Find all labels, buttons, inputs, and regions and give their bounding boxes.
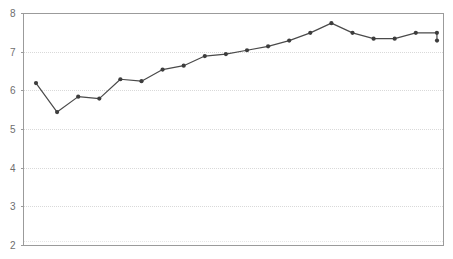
data-point-marker — [97, 96, 101, 100]
series-line-1 — [36, 23, 437, 112]
data-point-marker — [435, 38, 439, 42]
y-tick-label-2: 2 — [10, 240, 16, 251]
chart-container: 2345678 — [0, 0, 453, 259]
data-point-marker — [161, 67, 165, 71]
data-point-marker — [372, 37, 376, 41]
data-point-marker — [393, 37, 397, 41]
data-point-marker — [414, 31, 418, 35]
data-series-group — [36, 23, 437, 112]
data-point-marker — [308, 31, 312, 35]
data-point-marker — [245, 48, 249, 52]
y-tick-label-4: 4 — [10, 163, 16, 174]
y-tick-label-5: 5 — [10, 124, 16, 135]
data-markers-group — [34, 21, 439, 114]
data-point-marker — [182, 64, 186, 68]
data-point-marker — [203, 54, 207, 58]
data-point-marker — [139, 79, 143, 83]
data-point-marker — [34, 81, 38, 85]
y-axis-tick-labels: 2345678 — [10, 8, 24, 251]
y-tick-label-6: 6 — [10, 85, 16, 96]
data-point-marker — [329, 21, 333, 25]
data-point-marker — [118, 77, 122, 81]
y-tick-label-3: 3 — [10, 201, 16, 212]
data-point-marker — [435, 31, 439, 35]
line-chart: 2345678 — [0, 0, 453, 259]
y-tick-label-8: 8 — [10, 8, 16, 19]
gridlines-group — [24, 52, 444, 241]
data-point-marker — [266, 44, 270, 48]
data-point-marker — [287, 38, 291, 42]
y-tick-label-7: 7 — [10, 47, 16, 58]
data-point-marker — [224, 52, 228, 56]
data-point-marker — [76, 95, 80, 99]
data-point-marker — [55, 110, 59, 114]
data-point-marker — [350, 31, 354, 35]
